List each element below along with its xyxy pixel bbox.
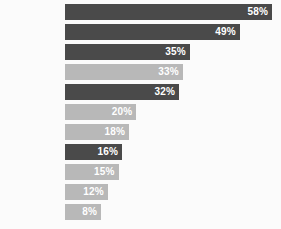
bar-row: 49% [65, 24, 281, 40]
bar-row: 32% [65, 84, 281, 100]
bar: 8% [65, 204, 101, 220]
bar-value-label: 49% [215, 24, 240, 40]
bar: 33% [65, 64, 183, 80]
bar: 35% [65, 44, 190, 60]
bar-row: 15% [65, 164, 281, 180]
bar-value-label: 58% [247, 4, 272, 20]
bar-value-label: 20% [112, 104, 137, 120]
bar-row: 16% [65, 144, 281, 160]
bar-value-label: 35% [165, 44, 190, 60]
bar: 12% [65, 184, 108, 200]
bar-row: 58% [65, 4, 281, 20]
bar: 49% [65, 24, 240, 40]
bar-row: 8% [65, 204, 281, 220]
bar-chart: t 58%49%35%33%32%20%18%16%15%12%8% [0, 0, 281, 229]
bars-container: 58%49%35%33%32%20%18%16%15%12%8% [65, 4, 281, 229]
bar: 18% [65, 124, 129, 140]
bar-row: 33% [65, 64, 281, 80]
bar: 58% [65, 4, 272, 20]
bar-value-label: 18% [105, 124, 130, 140]
bar-value-label: 32% [155, 84, 180, 100]
bar-row: 20% [65, 104, 281, 120]
bar: 15% [65, 164, 119, 180]
truncated-category-label: t [0, 83, 7, 97]
bar-value-label: 16% [97, 144, 122, 160]
bar-value-label: 15% [94, 164, 119, 180]
bar-row: 12% [65, 184, 281, 200]
bar-value-label: 33% [158, 64, 183, 80]
truncated-category-label-text: t [0, 83, 7, 97]
bar: 32% [65, 84, 179, 100]
bar: 16% [65, 144, 122, 160]
bar-value-label: 12% [83, 184, 108, 200]
bar-row: 18% [65, 124, 281, 140]
bar-row: 35% [65, 44, 281, 60]
bar: 20% [65, 104, 136, 120]
bar-value-label: 8% [82, 204, 101, 220]
